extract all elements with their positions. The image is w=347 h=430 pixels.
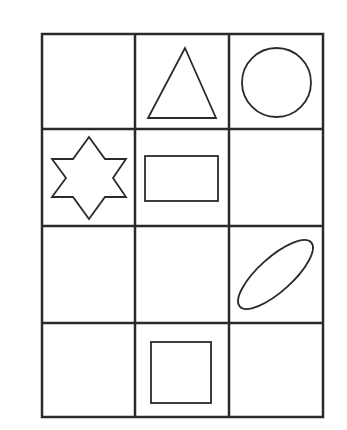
cell-r0-c0-empty: [43, 35, 134, 128]
grid: [42, 34, 323, 417]
triangle-shape: [148, 48, 216, 118]
rectangle-shape: [145, 156, 218, 201]
shape-grid-diagram: [0, 0, 347, 430]
circle-shape: [242, 48, 311, 117]
six-pointed-star-shape: [52, 137, 126, 219]
square-shape: [151, 342, 211, 403]
tilted-ellipse-shape: [228, 230, 322, 320]
